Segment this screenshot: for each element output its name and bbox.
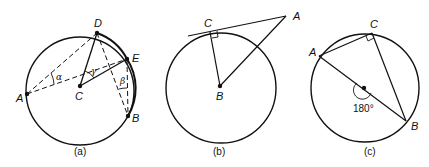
- caption-c: (c): [364, 146, 376, 157]
- label-beta: β: [119, 76, 125, 86]
- chord-AE: [27, 59, 127, 94]
- caption-a: (a): [74, 146, 86, 157]
- chord-AC: [319, 33, 372, 56]
- right-angle-mark-b: [212, 31, 218, 38]
- geometry-figure: A C D E B α γ β (a) C B A (b): [0, 0, 429, 167]
- label-180-degrees: 180°: [353, 103, 374, 114]
- chord-AD: [27, 33, 97, 94]
- point-B-dot: [126, 114, 130, 118]
- angle-beta-arc: [119, 88, 127, 89]
- panel-c: A C B 180° (c): [308, 18, 419, 157]
- caption-b: (b): [213, 146, 225, 157]
- label-A: A: [15, 92, 23, 104]
- radius-BC: [210, 32, 220, 86]
- point-A-dot: [25, 92, 29, 96]
- chord-DB: [97, 33, 128, 116]
- label-gamma: γ: [91, 66, 97, 76]
- label-E: E: [132, 52, 140, 64]
- label-B: B: [216, 90, 223, 102]
- panel-b: C B A (b): [166, 10, 300, 157]
- circle-b: [166, 33, 276, 143]
- angle-alpha-arc: [51, 73, 54, 84]
- label-C: C: [370, 18, 378, 30]
- arc-DE: [97, 33, 127, 59]
- point-B-dot: [218, 84, 222, 88]
- label-B: B: [132, 112, 139, 124]
- label-alpha: α: [56, 72, 62, 82]
- label-B: B: [411, 120, 418, 132]
- label-A: A: [292, 10, 300, 22]
- line-BA: [220, 16, 286, 86]
- label-C: C: [75, 90, 83, 102]
- panel-a: A C D E B α γ β (a): [15, 17, 140, 157]
- point-E-dot: [125, 57, 129, 61]
- chord-EB: [127, 59, 128, 116]
- angle-180-arc: [353, 83, 371, 99]
- right-angle-mark-c: [366, 36, 374, 41]
- label-A: A: [308, 46, 316, 58]
- point-C-dot: [78, 84, 82, 88]
- label-C: C: [204, 17, 212, 29]
- center-dot: [362, 86, 366, 90]
- label-D: D: [94, 17, 102, 29]
- point-D-dot: [95, 31, 99, 35]
- tangent-line: [188, 16, 286, 36]
